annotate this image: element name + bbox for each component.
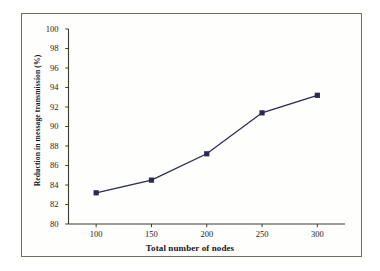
x-tick-label: 100 bbox=[81, 229, 111, 239]
series-markers bbox=[94, 93, 320, 196]
axis-lines bbox=[69, 29, 346, 224]
data-point-marker bbox=[315, 93, 320, 98]
x-tick-label: 150 bbox=[136, 229, 166, 239]
y-axis-title: Reduction in message transmission (%) bbox=[33, 21, 42, 221]
data-point-marker bbox=[204, 151, 209, 156]
data-point-marker bbox=[94, 190, 99, 195]
data-point-marker bbox=[259, 110, 264, 115]
x-axis-title: Total number of nodes bbox=[0, 243, 380, 253]
figure-canvas: 80828486889092949698100 100150200250300 … bbox=[0, 0, 380, 271]
x-tick-label: 300 bbox=[302, 229, 332, 239]
x-tick-label: 200 bbox=[192, 229, 222, 239]
series-line bbox=[96, 95, 317, 193]
plot-area: 80828486889092949698100 100150200250300 … bbox=[0, 0, 380, 271]
data-point-marker bbox=[149, 178, 154, 183]
x-tick-label: 250 bbox=[247, 229, 277, 239]
